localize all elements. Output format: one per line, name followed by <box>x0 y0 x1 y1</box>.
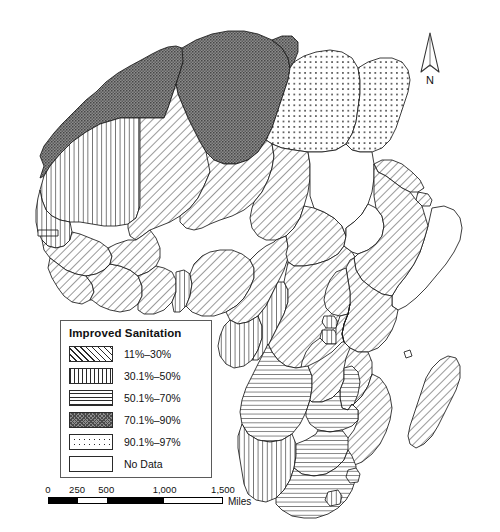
legend-item-label: No Data <box>124 458 163 470</box>
legend-swatch-blank <box>69 456 113 472</box>
scale-bar-ticks: 02505001,0001,500 <box>48 484 248 495</box>
scale-bar-units: Miles <box>228 496 251 507</box>
scale-bar-segment <box>164 498 222 503</box>
north-label: N <box>412 74 448 86</box>
scale-bar-segment <box>49 498 78 503</box>
legend-item[interactable]: No Data <box>69 453 211 475</box>
scale-bar: 02505001,0001,500 Miles <box>48 484 248 510</box>
legend-item-label: 90.1%–97% <box>124 436 181 448</box>
legend-swatch-horizontal-lines <box>69 390 113 406</box>
region-swaziland[interactable] <box>346 468 360 483</box>
legend-item[interactable]: 70.1%–90% <box>69 409 211 431</box>
scale-bar-segment <box>107 498 165 503</box>
scale-bar-tick: 1,000 <box>153 484 177 495</box>
legend-swatch-vertical-lines <box>69 368 113 384</box>
map-legend: Improved Sanitation 11%–30%30.1%–50%50.1… <box>60 320 212 478</box>
region-madagascar[interactable] <box>408 356 460 448</box>
scale-bar-tick: 500 <box>98 484 114 495</box>
legend-swatch-dark-stipple <box>69 412 113 428</box>
legend-item-label: 70.1%–90% <box>124 414 181 426</box>
scale-bar-track <box>48 497 223 504</box>
legend-item-label: 30.1%–50% <box>124 370 181 382</box>
legend-item[interactable]: 11%–30% <box>69 343 211 365</box>
legend-rows: 11%–30%30.1%–50%50.1%–70%70.1%–90%90.1%–… <box>69 343 211 475</box>
scale-bar-tick: 250 <box>69 484 85 495</box>
region-gambia[interactable] <box>38 230 58 236</box>
scale-bar-tick: 0 <box>45 484 50 495</box>
scale-bar-segment <box>78 498 107 503</box>
legend-item[interactable]: 30.1%–50% <box>69 365 211 387</box>
scale-bar-tick: 1,500 <box>211 484 235 495</box>
legend-item[interactable]: 50.1%–70% <box>69 387 211 409</box>
legend-title: Improved Sanitation <box>69 327 211 339</box>
legend-swatch-dotted <box>69 434 113 450</box>
region-comoros[interactable] <box>404 350 412 358</box>
legend-item[interactable]: 90.1%–97% <box>69 431 211 453</box>
legend-item-label: 50.1%–70% <box>124 392 181 404</box>
region-lesotho[interactable] <box>325 490 342 506</box>
region-rwanda[interactable] <box>322 316 338 328</box>
legend-item-label: 11%–30% <box>124 348 171 360</box>
legend-swatch-diagonal-hatch <box>69 346 113 362</box>
map-figure: N Improved Sanitation 11%–30%30.1%–50%50… <box>0 0 500 532</box>
